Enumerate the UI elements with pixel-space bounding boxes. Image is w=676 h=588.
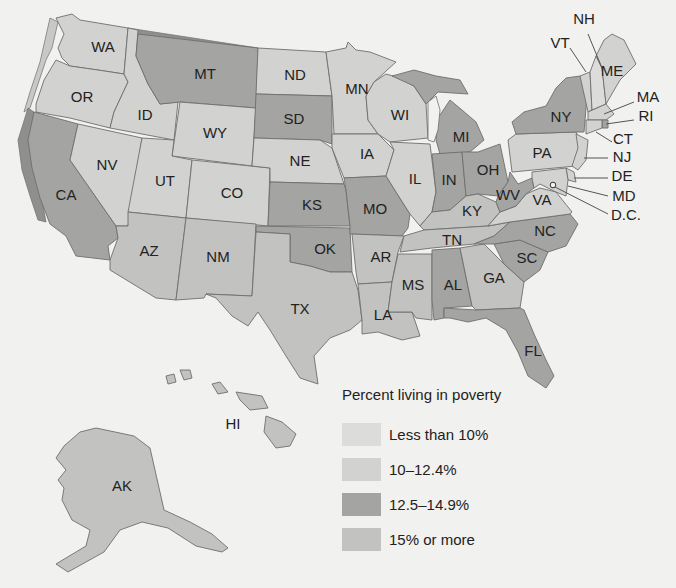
label-nm: NM [206,248,229,265]
state-hi-4 [236,392,268,410]
label-ar: AR [371,248,392,265]
label-ny: NY [551,108,572,125]
label-vt: VT [550,34,569,51]
label-al: AL [444,276,462,293]
label-hi: HI [226,415,241,432]
label-ia: IA [360,145,374,162]
label-id: ID [138,106,153,123]
label-mo: MO [363,200,387,217]
label-nc: NC [534,222,556,239]
label-dc: D.C. [611,206,641,223]
label-ne: NE [290,152,311,169]
label-me: ME [601,62,624,79]
label-wv: WV [496,186,520,203]
leader-vt [570,48,586,72]
legend-label: 10–12.4% [389,461,457,478]
label-de: DE [612,167,633,184]
label-il: IL [409,170,422,187]
state-ak [56,428,228,572]
label-ut: UT [155,172,175,189]
legend-swatch [342,423,381,446]
label-or: OR [71,88,94,105]
label-az: AZ [139,242,158,259]
dc-marker-icon [550,182,556,188]
label-in: IN [442,171,457,188]
label-ca: CA [56,186,77,203]
label-tx: TX [290,300,309,317]
label-wa: WA [91,38,115,55]
label-mn: MN [345,80,368,97]
label-ms: MS [402,276,425,293]
legend-item-lt10: Less than 10% [342,423,642,446]
legend-label: Less than 10% [389,426,488,443]
legend-label: 12.5–14.9% [389,496,469,513]
legend-swatch [342,528,381,551]
label-mt: MT [194,65,216,82]
label-la: LA [374,306,392,323]
label-nh: NH [573,10,595,27]
label-mi: MI [453,128,470,145]
legend-swatch [342,493,381,516]
legend-item-ge15: 15% or more [342,528,642,551]
label-tn: TN [442,231,462,248]
label-co: CO [221,184,244,201]
state-ct [586,120,602,134]
state-hi-1 [166,374,176,384]
label-sc: SC [517,249,538,266]
label-pa: PA [533,144,552,161]
label-wi: WI [391,106,409,123]
label-ga: GA [483,269,505,286]
label-nj: NJ [613,148,631,165]
label-ri: RI [639,107,654,124]
label-ma: MA [637,88,660,105]
state-ny [512,76,588,134]
legend-item-10to12: 10–12.4% [342,458,642,481]
legend-item-12to15: 12.5–14.9% [342,493,642,516]
state-hi-5 [264,416,296,448]
label-nv: NV [97,156,118,173]
state-hi-3 [212,382,228,394]
label-nd: ND [284,66,306,83]
leader-ri [606,120,634,124]
label-oh: OH [477,161,500,178]
label-fl: FL [524,342,542,359]
label-va: VA [533,191,552,208]
legend-title: Percent living in poverty [342,386,642,403]
label-ct: CT [613,130,633,147]
label-ak: AK [112,477,132,494]
state-hi-2 [180,370,192,380]
legend-label: 15% or more [389,531,475,548]
label-ok: OK [314,240,336,257]
leader-ct [596,132,612,142]
label-ky: KY [462,202,482,219]
label-sd: SD [284,110,305,127]
label-wy: WY [203,124,227,141]
legend-swatch [342,458,381,481]
label-ks: KS [302,196,322,213]
legend: Percent living in poverty Less than 10% … [342,386,642,563]
leader-md [568,186,608,196]
label-md: MD [612,187,635,204]
